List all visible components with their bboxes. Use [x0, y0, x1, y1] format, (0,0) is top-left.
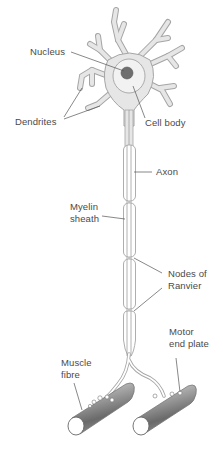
- label-axon: Axon: [156, 166, 178, 178]
- label-nodes-line1: Nodes of: [168, 268, 207, 280]
- label-myelin-line1: Myelin: [70, 201, 98, 213]
- myelin-sheath: [124, 145, 136, 356]
- label-dendrites: Dendrites: [15, 116, 57, 128]
- label-nucleus: Nucleus: [30, 46, 65, 58]
- label-cell-body: Cell body: [145, 117, 186, 129]
- label-motor-line2: end plate: [169, 338, 209, 350]
- neuron-diagram: [0, 0, 223, 452]
- nucleus: [121, 67, 133, 79]
- muscle-fibre-right: [133, 385, 196, 435]
- muscle-fibre-left: [68, 383, 134, 435]
- label-myelin-line2: sheath: [70, 213, 99, 225]
- label-muscle-line2: fibre: [61, 369, 80, 381]
- label-motor-line1: Motor: [169, 326, 194, 338]
- label-nodes-line2: Ranvier: [168, 280, 201, 292]
- label-muscle-line1: Muscle: [61, 357, 92, 369]
